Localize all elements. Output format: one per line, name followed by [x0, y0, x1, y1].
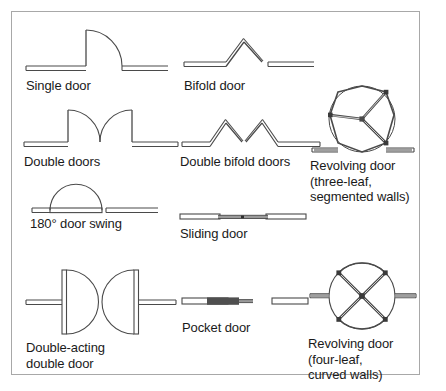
symbol-double-doors: Double doors [22, 104, 182, 162]
symbol-pocket-door: Pocket door [180, 292, 310, 338]
revolving-door-three-leaf-label: Revolving door (three-leaf, segmented wa… [310, 158, 410, 205]
pocket-door-label: Pocket door [182, 320, 250, 336]
revolving-door-four-leaf-drawing [308, 258, 420, 344]
double-doors-label: Double doors [24, 154, 100, 170]
bifold-door-label: Bifold door [184, 78, 245, 94]
symbol-door-swing-180: 180° door swing [30, 176, 180, 224]
double-bifold-doors-label: Double bifold doors [180, 154, 290, 170]
single-door-label: Single door [26, 78, 91, 94]
symbol-revolving-door-three-leaf: Revolving door (three-leaf, segmented wa… [310, 76, 420, 166]
symbol-double-acting-double-door: Double-acting double door [24, 262, 184, 344]
sliding-door-label: Sliding door [180, 226, 247, 242]
symbol-revolving-door-four-leaf: Revolving door (four-leaf, curved walls) [308, 258, 420, 344]
door-swing-180-label: 180° door swing [30, 216, 122, 232]
symbol-sliding-door: Sliding door [178, 206, 308, 248]
revolving-door-three-leaf-drawing [310, 76, 420, 166]
door-symbols-figure: Single door Bifold door [0, 0, 446, 391]
symbol-bifold-door: Bifold door [182, 22, 322, 76]
double-acting-double-door-drawing [24, 262, 184, 344]
double-acting-double-door-label: Double-acting double door [26, 340, 105, 371]
single-door-drawing [22, 22, 172, 76]
bifold-door-drawing [182, 22, 322, 76]
revolving-door-four-leaf-label: Revolving door (four-leaf, curved walls) [308, 336, 393, 383]
symbol-double-bifold-doors: Double bifold doors [180, 110, 325, 162]
symbol-single-door: Single door [22, 22, 172, 76]
